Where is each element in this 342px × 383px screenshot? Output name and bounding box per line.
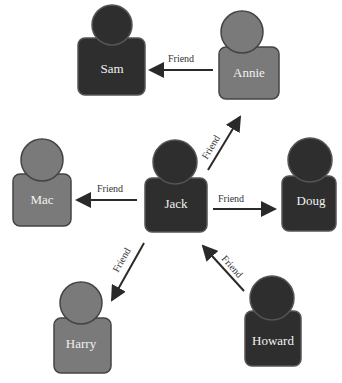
node-label: Annie bbox=[233, 65, 265, 80]
node-label: Jack bbox=[164, 196, 188, 211]
edge-jack-to-annie: Friend bbox=[199, 117, 240, 170]
person-node-howard: Howard bbox=[245, 276, 301, 366]
person-node-sam: Sam bbox=[78, 5, 145, 95]
person-head-icon bbox=[288, 138, 332, 182]
edge-howard-to-jack: Friend bbox=[203, 246, 245, 291]
edge-label: Friend bbox=[218, 193, 244, 204]
edge-jack-to-harry: Friend bbox=[110, 243, 144, 300]
social-graph-diagram: Friend Friend Friend Friend Friend Frien… bbox=[0, 0, 342, 383]
edge-annie-to-sam: Friend bbox=[150, 53, 213, 70]
node-label: Howard bbox=[252, 333, 294, 348]
person-node-annie: Annie bbox=[219, 11, 279, 99]
edge-label: Friend bbox=[220, 253, 246, 280]
person-head-icon bbox=[250, 276, 294, 320]
node-label: Harry bbox=[66, 336, 97, 351]
person-node-doug: Doug bbox=[282, 138, 336, 231]
person-head-icon bbox=[92, 5, 132, 45]
person-head-icon bbox=[21, 139, 63, 181]
node-label: Mac bbox=[30, 192, 53, 207]
node-label: Doug bbox=[297, 193, 326, 208]
person-head-icon bbox=[60, 282, 102, 324]
person-head-icon bbox=[221, 11, 263, 53]
edge-label: Friend bbox=[97, 183, 123, 194]
person-node-jack: Jack bbox=[145, 140, 207, 232]
edge-label: Friend bbox=[199, 133, 222, 161]
edge-jack-to-mac: Friend bbox=[77, 183, 137, 200]
person-node-harry: Harry bbox=[54, 282, 111, 373]
edge-jack-to-doug: Friend bbox=[213, 193, 275, 209]
node-label: Sam bbox=[100, 61, 123, 76]
person-head-icon bbox=[153, 140, 197, 184]
edge-label: Friend bbox=[168, 53, 194, 64]
person-node-mac: Mac bbox=[13, 139, 71, 226]
